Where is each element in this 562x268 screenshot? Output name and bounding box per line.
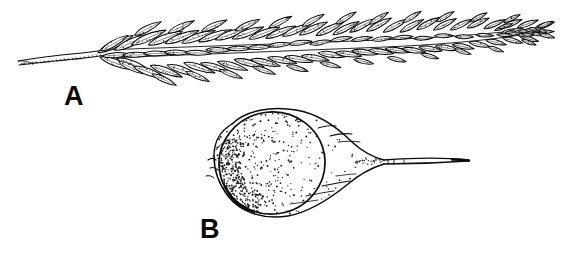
figure-a-label: A (64, 83, 84, 110)
illustration-plate: A B (0, 0, 562, 268)
figure-b-label: B (200, 216, 220, 243)
botanical-figure-canvas (0, 0, 562, 268)
